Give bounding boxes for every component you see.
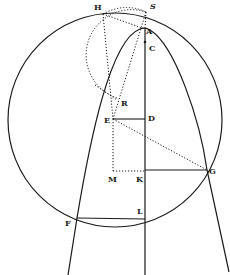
label-A: A	[146, 27, 152, 35]
geometry-diagram: H S A C R E D M K G F L	[0, 0, 230, 275]
segment-FL	[77, 218, 145, 219]
label-S: S	[150, 2, 156, 10]
label-F: F	[65, 219, 71, 227]
main-circle	[8, 13, 222, 227]
point-C-dot	[144, 41, 147, 44]
label-R: R	[121, 99, 128, 107]
diagram-drawing	[0, 0, 230, 275]
segment-EG	[113, 119, 207, 170]
label-D: D	[148, 114, 155, 122]
dotted-circle-arc	[86, 10, 146, 98]
label-M: M	[108, 175, 117, 183]
label-E: E	[104, 116, 110, 124]
label-H: H	[94, 3, 102, 11]
parabola-curve	[68, 28, 229, 275]
label-G: G	[209, 167, 216, 175]
label-K: K	[136, 175, 143, 183]
label-C: C	[149, 44, 155, 52]
label-L: L	[137, 207, 143, 215]
segment-HM	[103, 14, 113, 119]
